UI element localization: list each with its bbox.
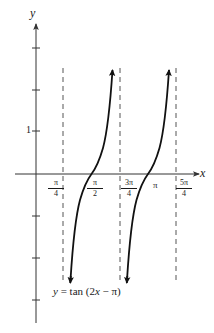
branch-2-bottom-arrow <box>127 276 128 283</box>
x-tick-pi-over-4: π 4 <box>48 179 64 198</box>
x-tick-5pi-over-4: 5π 4 <box>176 179 192 198</box>
y-axis-label: y <box>30 7 35 19</box>
tan-branch-2 <box>127 70 169 280</box>
x-axis-label: x <box>200 167 205 179</box>
y-tick-label-1: 1 <box>26 125 31 135</box>
tan-branch-1 <box>71 70 113 280</box>
x-tick-pi: π <box>153 181 158 190</box>
branch-1-bottom-arrow <box>70 276 71 283</box>
asymptotes <box>63 68 176 282</box>
x-tick-pi-over-2: π 2 <box>87 179 103 198</box>
tangent-graph <box>0 0 214 333</box>
equation-label: y = tan (2x − π) <box>53 286 121 297</box>
x-tick-3pi-over-4: 3π 4 <box>121 179 137 198</box>
